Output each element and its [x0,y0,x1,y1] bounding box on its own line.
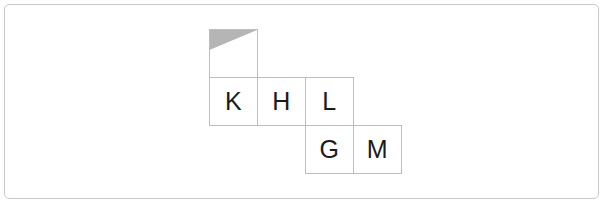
cell-letter: M [367,137,388,163]
puzzle-frame: KHLGM [4,4,599,199]
letter-cell-l[interactable]: L [305,77,354,126]
letter-cell-g[interactable]: G [305,125,354,174]
cell-letter: H [272,89,291,115]
shaded-corner-triangle-icon [210,30,257,77]
cell-letter: G [320,137,340,163]
letter-cell-m[interactable]: M [353,125,402,174]
shaded-marker-cell[interactable] [209,29,258,78]
letter-cell-k[interactable]: K [209,77,258,126]
letter-cell-h[interactable]: H [257,77,306,126]
cell-letter: L [322,89,336,115]
letter-grid-board: KHLGM [209,29,409,177]
cell-letter: K [225,89,242,115]
